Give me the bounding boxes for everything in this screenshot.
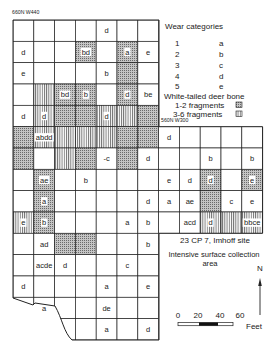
grid-cell-r8-c6	[117, 169, 138, 190]
grid-cell-r2-c5	[96, 41, 117, 62]
legend-fragments-1-2-label: 1-2 fragments	[175, 101, 224, 110]
grid-cell-r13-c3	[55, 276, 76, 297]
north-arrow-icon: N	[257, 264, 263, 315]
cell-wear-label: c	[126, 261, 130, 270]
cell-wear-label: d	[42, 112, 46, 121]
cell-wear-label: d	[146, 154, 150, 163]
cell-wear-label: b	[146, 218, 150, 227]
grid-cell-r8-c5	[96, 169, 117, 190]
grid-cell-r6-c1	[13, 127, 34, 148]
grid-cell-r10-c5	[96, 212, 117, 233]
legend-category-letter: d	[219, 72, 223, 81]
grid-cell-r6-c9	[179, 127, 200, 148]
grid-cell-r14-c4	[75, 297, 96, 318]
grid-cell-r7-c3	[55, 148, 76, 169]
legend-category-letter: c	[219, 61, 223, 70]
grid-cell-r7-c4	[75, 148, 96, 169]
grid-cell-r3-c4	[75, 63, 96, 84]
cell-wear-label: e	[21, 69, 25, 78]
cell-wear-label: acde	[36, 261, 52, 270]
cell-wear-label: d	[146, 197, 150, 206]
grid-cell-r5-c7	[138, 105, 159, 126]
cell-wear-label: d	[21, 112, 25, 121]
legend-category-1: 1 a	[175, 39, 224, 48]
grid-cell-r3-c2	[34, 63, 55, 84]
scale-bar: 0 20 40 60 Feet	[176, 311, 263, 331]
legend: Wear categories 1 a 2 b 3 c 4 d 5 e Whit…	[164, 22, 245, 119]
cell-wear-label: -c	[103, 154, 109, 163]
cell-wear-label: d	[209, 176, 213, 185]
grid-cell-r2-c2	[34, 41, 55, 62]
grid-cell-r7-c11	[221, 148, 242, 169]
grid-cell-r8-c1	[13, 169, 34, 190]
legend-category-number: 1	[175, 39, 180, 48]
grid-cell-r9-c1	[13, 191, 34, 212]
grid-cell-r7-c1	[13, 148, 34, 169]
cell-wear-label: b	[105, 69, 109, 78]
grid-cell-r12-c4	[75, 255, 96, 276]
cell-wear-label: bd	[82, 48, 90, 57]
cell-wear-label: de	[102, 304, 110, 313]
legend-category-number: 4	[175, 72, 180, 81]
cell-wear-label: d	[21, 282, 25, 291]
legend-category-letter: a	[219, 39, 224, 48]
grid-cell-r5-c3	[55, 105, 76, 126]
grid-cell-r10-c4	[75, 212, 96, 233]
grid-cell-r3-c3	[55, 63, 76, 84]
cell-wear-label: e	[146, 282, 150, 291]
cell-wear-label: d	[21, 48, 25, 57]
grid-cell-r8-c3	[55, 169, 76, 190]
scale-tick-60: 60	[236, 311, 245, 320]
site-description-line1: Intensive surface collection	[168, 250, 259, 259]
grid-cell-r2-c3	[55, 41, 76, 62]
grid-cell-r9-c5	[96, 191, 117, 212]
scale-unit: Feet	[246, 322, 263, 331]
scale-tick-40: 40	[216, 311, 225, 320]
cell-wear-label: e	[146, 48, 150, 57]
grid-cell-r12-c7	[138, 255, 159, 276]
cell-wear-label: ae	[186, 197, 194, 206]
legend-category-letter: e	[219, 82, 224, 91]
grid-cell-r5-c6	[117, 105, 138, 126]
grid-cell-r13-c2	[34, 276, 55, 297]
grid-nw-corner-label: 660N W440	[12, 9, 40, 15]
cell-wear-label: acd	[184, 218, 196, 227]
legend-category-number: 2	[175, 50, 180, 59]
grid-cell-r1-c1	[13, 20, 34, 41]
cell-wear-label: d	[105, 26, 109, 35]
cell-wear-label: d	[105, 112, 109, 121]
cell-wear-label: b	[42, 218, 46, 227]
cell-wear-label: abdd	[36, 133, 53, 142]
cell-wear-label: b	[146, 240, 150, 249]
grid-cell-r9-c10	[200, 191, 221, 212]
grid-cell-r6-c5	[96, 127, 117, 148]
grid-cell-r11-c6	[117, 233, 138, 254]
grid-cell-r15-c2	[34, 319, 55, 340]
grid-cell-r14-c6	[117, 297, 138, 318]
legend-category-number: 5	[175, 82, 180, 91]
legend-title: Wear categories	[165, 22, 223, 31]
grid-cell-r1-c6	[117, 20, 138, 41]
grid-cell-r4-c2	[34, 84, 55, 105]
hatch-swatch-icon	[236, 111, 242, 117]
grid-cell-r6-c12	[242, 127, 263, 148]
scale-tick-20: 20	[194, 311, 203, 320]
legend-fragments-3-6-label: 3-6 fragments	[173, 110, 222, 119]
cell-wear-label: e	[21, 218, 25, 227]
cell-wear-label: c	[230, 197, 234, 206]
legend-category-3: 3 c	[175, 61, 223, 70]
grid-cell-r1-c7	[138, 20, 159, 41]
legend-category-letter: b	[219, 50, 224, 59]
scale-tick-0: 0	[176, 311, 181, 320]
grid-cell-r15-c4	[75, 319, 96, 340]
grid-cell-r14-c1	[13, 297, 34, 318]
north-label: N	[257, 264, 263, 273]
cell-wear-label: bd	[61, 90, 69, 99]
collection-grid	[13, 20, 263, 340]
cell-wear-label: d	[63, 261, 67, 270]
cell-wear-label: b	[84, 176, 88, 185]
grid-cell-r12-c1	[13, 255, 34, 276]
cell-wear-label: e	[250, 197, 254, 206]
grid-cell-r15-c6	[117, 319, 138, 340]
grid-cell-r4-c1	[13, 84, 34, 105]
